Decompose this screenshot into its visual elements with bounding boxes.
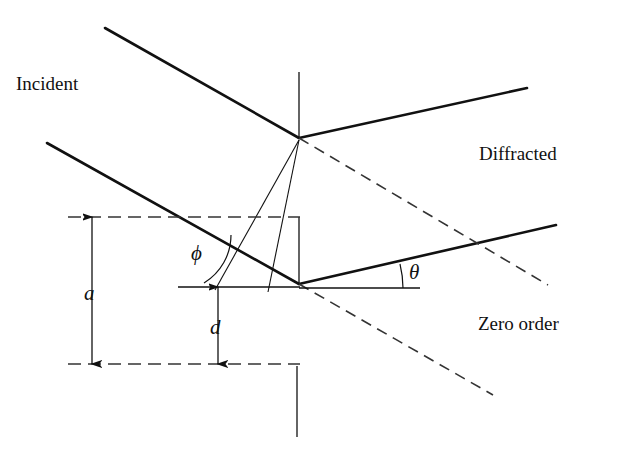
label-incident: Incident: [16, 74, 78, 93]
diffracted-ray-upper: [299, 88, 527, 138]
label-blaze-angle-phi: ϕ: [191, 243, 202, 264]
label-zero-order: Zero order: [478, 314, 559, 333]
diffraction-grating-figure: Incident Diffracted Zero order a d ϕ θ: [0, 0, 631, 459]
wavefront-line-group: [215, 140, 299, 292]
label-diffracted: Diffracted: [479, 144, 557, 163]
incident-ray-upper: [105, 28, 299, 138]
grating-normal-group: [297, 72, 299, 437]
label-groove-spacing-a: a: [84, 283, 95, 304]
diffracted-ray-group: [299, 88, 556, 284]
zero-order-dashed-lower: [299, 284, 493, 395]
wavefront-line-left: [215, 140, 299, 290]
zero-order-dashed-group: [299, 138, 548, 395]
wavefront-line-right: [268, 140, 299, 292]
incident-ray-group: [47, 28, 299, 284]
baseline-group: [178, 287, 420, 288]
label-groove-depth-d: d: [210, 317, 221, 338]
theta-angle-arc: [400, 264, 403, 288]
figure-canvas: [0, 0, 631, 459]
dashed-horizontal-group: [68, 217, 300, 364]
incident-ray-lower: [47, 143, 299, 284]
label-diffraction-angle-theta: θ: [409, 262, 419, 283]
diffracted-ray-lower: [299, 225, 556, 284]
angle-arc-group: [204, 235, 403, 288]
